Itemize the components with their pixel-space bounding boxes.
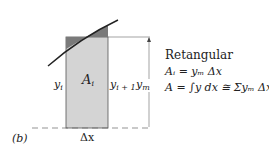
method-title: Retangular [165, 49, 233, 61]
strip-area-formula: Aᵢ = yₘ Δx [165, 66, 222, 77]
right-height-label: yi + 1 [110, 79, 136, 92]
panel-label: (b) [12, 133, 28, 144]
arrow-up-icon [147, 37, 151, 42]
left-height-label: yi [54, 79, 63, 92]
strip-area-label: Ai [82, 73, 94, 88]
total-area-formula: A = ∫y dx ≅ Σyₘ Δx [165, 82, 269, 93]
mean-height-label: ym [136, 79, 150, 92]
rectangular-strip-diagram [0, 0, 269, 149]
width-label: Δx [80, 132, 94, 143]
